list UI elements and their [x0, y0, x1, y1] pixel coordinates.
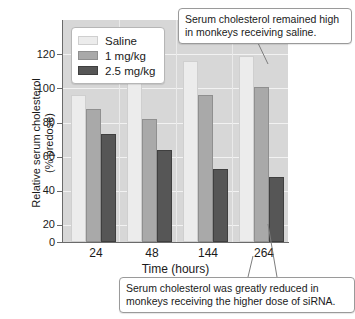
callout-sirna-line2: monkeys receiving the higher dose of siR…: [126, 295, 348, 308]
callout-sirna-line1: Serum cholesterol was greatly reduced in: [126, 282, 348, 295]
callout-saline: Serum cholesterol remained high in monke…: [178, 8, 352, 44]
callout-saline-line1: Serum cholesterol remained high: [185, 13, 345, 26]
callout-sirna: Serum cholesterol was greatly reduced in…: [119, 277, 355, 313]
callout-saline-line2: in monkeys receiving saline.: [185, 26, 345, 39]
